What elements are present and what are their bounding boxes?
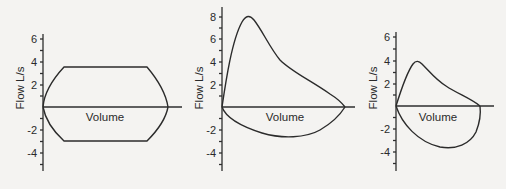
y-tick-label: 6 bbox=[384, 31, 390, 43]
y-tick-label: 8 bbox=[210, 11, 216, 23]
y-tick-label: -4 bbox=[380, 146, 390, 158]
y-tick-label: 4 bbox=[210, 56, 216, 68]
y-axis-label: Flow L/s bbox=[193, 66, 205, 109]
y-tick-label: -4 bbox=[27, 147, 37, 159]
chart-1: Flow L/s 6 4 2 -2 -4 Volume bbox=[14, 33, 182, 171]
y-axis-label: Flow L/s bbox=[14, 66, 26, 109]
y-tick-label: 6 bbox=[31, 33, 37, 45]
expiratory-curve bbox=[43, 67, 168, 107]
flow-volume-figure: Flow L/s 6 4 2 -2 -4 Volume Flow L/s bbox=[0, 0, 506, 189]
y-tick-label: 2 bbox=[384, 78, 390, 90]
y-tick-label: 2 bbox=[210, 79, 216, 91]
chart-2: Flow L/s 8 6 4 2 -2 -4 Volume bbox=[193, 7, 355, 171]
x-axis-label: Volume bbox=[86, 111, 124, 123]
y-axis-label: Flow L/s bbox=[367, 66, 379, 109]
expiratory-curve bbox=[396, 61, 480, 106]
y-tick-label: 6 bbox=[210, 33, 216, 45]
y-tick-label: -2 bbox=[27, 124, 37, 136]
y-tick-label: 2 bbox=[31, 79, 37, 91]
y-tick-label: 4 bbox=[384, 55, 390, 67]
chart-3: Flow L/s 6 4 2 -2 -4 Volume bbox=[367, 31, 494, 171]
y-tick-label: -2 bbox=[380, 123, 390, 135]
expiratory-curve bbox=[222, 16, 345, 107]
y-tick-label: -4 bbox=[206, 147, 216, 159]
y-tick-label: -2 bbox=[206, 124, 216, 136]
y-tick-label: 4 bbox=[31, 56, 37, 68]
x-axis-label: Volume bbox=[266, 111, 304, 123]
x-axis-label: Volume bbox=[419, 111, 457, 123]
